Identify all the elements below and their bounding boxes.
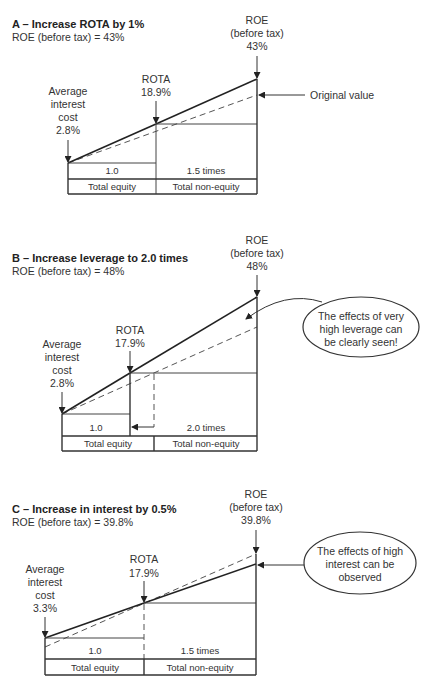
svg-text:2.8%: 2.8%	[50, 377, 74, 389]
total-equity-label: Total equity	[84, 438, 132, 449]
panel-a-roe-label: ROE (before tax) 43%	[230, 14, 284, 52]
original-value-label: Original value	[310, 89, 374, 101]
svg-text:ROE: ROE	[246, 234, 269, 246]
panel-a-rota-label: ROTA 18.9%	[141, 73, 171, 98]
rota-line	[45, 603, 144, 638]
svg-text:ROE: ROE	[245, 488, 268, 500]
svg-text:ROTA: ROTA	[142, 73, 170, 85]
svg-text:interest: interest	[51, 98, 86, 110]
svg-text:Average: Average	[26, 563, 65, 575]
total-equity-label: Total equity	[88, 181, 136, 192]
panel-b-roe-label: ROE (before tax) 48%	[230, 234, 284, 272]
svg-text:(before tax): (before tax)	[230, 27, 284, 39]
svg-text:be clearly seen!: be clearly seen!	[324, 336, 398, 348]
svg-text:2.8%: 2.8%	[56, 124, 80, 136]
svg-text:(before tax): (before tax)	[229, 501, 283, 513]
panel-b-callout-text: The effects of very high leverage can be…	[318, 310, 405, 348]
svg-text:observed: observed	[338, 571, 381, 583]
equity-ratio: 1.0	[88, 645, 101, 656]
roe-diagram: A – Increase ROTA by 1% ROE (before tax)…	[0, 0, 427, 688]
original-roe-line	[62, 327, 257, 414]
panel-c-roe-label: ROE (before tax) 39.8%	[229, 488, 283, 526]
total-nonequity-label: Total non-equity	[172, 181, 239, 192]
svg-text:Average: Average	[43, 338, 82, 350]
nonequity-ratio: 1.5 times	[187, 165, 226, 176]
total-equity-label: Total equity	[71, 662, 119, 673]
total-nonequity-label: Total non-equity	[166, 662, 233, 673]
svg-text:17.9%: 17.9%	[115, 337, 145, 349]
panel-b-interest-label: Average interest cost 2.8%	[43, 338, 82, 389]
equity-ratio: 1.0	[89, 422, 102, 433]
panel-a-subtitle: ROE (before tax) = 43%	[12, 31, 124, 43]
svg-text:interest: interest	[28, 576, 63, 588]
svg-text:The effects of very: The effects of very	[318, 310, 405, 322]
panel-b: B – Increase leverage to 2.0 times ROE (…	[12, 234, 419, 451]
svg-text:cost: cost	[35, 589, 54, 601]
panel-b-rota-label: ROTA 17.9%	[115, 324, 145, 349]
panel-a-interest-label: Average interest cost 2.8%	[49, 85, 88, 136]
panel-c-subtitle: ROE (before tax) = 39.8%	[12, 516, 133, 528]
panel-c-rota-label: ROTA 17.9%	[129, 553, 159, 579]
nonequity-ratio: 2.0 times	[187, 422, 226, 433]
equity-ratio: 1.0	[105, 165, 118, 176]
svg-text:ROE: ROE	[246, 14, 269, 26]
svg-text:high leverage can: high leverage can	[320, 323, 403, 335]
svg-text:ROTA: ROTA	[130, 553, 158, 565]
panel-b-subtitle: ROE (before tax) = 48%	[12, 265, 124, 277]
svg-text:48%: 48%	[246, 260, 267, 272]
rota-line	[68, 124, 156, 163]
roe-line	[144, 564, 256, 603]
svg-text:interest can be: interest can be	[326, 558, 395, 570]
panel-c-title: C – Increase in interest by 0.5%	[12, 503, 177, 515]
panel-c-interest-label: Average interest cost 3.3%	[26, 563, 65, 614]
original-roe-line	[68, 95, 257, 163]
panel-c: C – Increase in interest by 0.5% ROE (be…	[12, 488, 416, 675]
svg-text:Average: Average	[49, 85, 88, 97]
svg-text:ROTA: ROTA	[116, 324, 144, 336]
svg-text:3.3%: 3.3%	[33, 602, 57, 614]
panel-b-title: B – Increase leverage to 2.0 times	[12, 252, 188, 264]
nonequity-ratio: 1.5 times	[181, 645, 220, 656]
svg-text:18.9%: 18.9%	[141, 86, 171, 98]
total-nonequity-label: Total non-equity	[172, 438, 239, 449]
panel-a: A – Increase ROTA by 1% ROE (before tax)…	[12, 14, 374, 194]
panel-a-title: A – Increase ROTA by 1%	[12, 18, 144, 30]
roe-line	[156, 79, 257, 124]
svg-text:cost: cost	[52, 364, 71, 376]
svg-text:cost: cost	[58, 111, 77, 123]
svg-text:39.8%: 39.8%	[241, 514, 271, 526]
svg-text:17.9%: 17.9%	[129, 567, 159, 579]
svg-text:43%: 43%	[246, 40, 267, 52]
svg-text:The effects of high: The effects of high	[317, 545, 403, 557]
svg-text:(before tax): (before tax)	[230, 247, 284, 259]
svg-text:interest: interest	[45, 351, 80, 363]
